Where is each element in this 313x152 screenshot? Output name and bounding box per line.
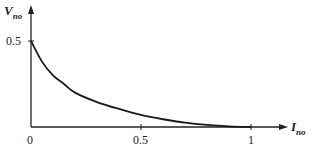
data-curve [31, 41, 251, 127]
y-tick-label-0.5: 0.5 [6, 35, 21, 47]
y-axis-arrow-icon [28, 5, 34, 14]
y-axis-label: Vno [4, 4, 22, 21]
x-axis-arrow-icon [279, 124, 288, 130]
x-tick-label-1: 1 [248, 134, 254, 146]
x-tick-label-0.5: 0.5 [133, 134, 148, 146]
chart-canvas [0, 0, 313, 152]
x-axis-label: Ino [291, 120, 306, 137]
x-tick-label-0: 0 [27, 134, 33, 146]
